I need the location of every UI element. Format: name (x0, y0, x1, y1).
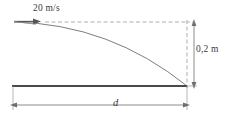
initial-speed-label: 20 m/s (33, 4, 60, 14)
drop-height-label: 0,2 m (196, 45, 219, 55)
distance-dimension (10, 86, 190, 110)
height-dimension-arrow-bottom (192, 82, 197, 89)
projectile-diagram: 20 m/s 0,2 m d (0, 0, 234, 122)
horizontal-distance-label: d (113, 98, 118, 109)
distance-dimension-arrow-right (183, 103, 190, 108)
distance-dimension-arrow-left (10, 103, 17, 108)
height-dimension-arrow-top (192, 19, 197, 26)
trajectory-curve (14, 22, 187, 86)
